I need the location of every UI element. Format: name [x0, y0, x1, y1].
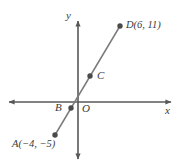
- point-d-label: D(6, 11): [126, 20, 161, 31]
- point-d-marker: [117, 23, 122, 28]
- x-axis-label: x: [165, 105, 170, 116]
- point-c-label: C: [97, 70, 104, 81]
- point-a-marker: [52, 132, 57, 137]
- point-b-marker: [68, 105, 73, 110]
- origin-label: O: [82, 103, 90, 114]
- line-segment-ad: [55, 26, 120, 135]
- y-axis-label: y: [66, 10, 71, 21]
- point-b-label: B: [55, 102, 62, 113]
- coordinate-plane-figure: y x O A(−4, −5) B C D(6, 11): [0, 0, 180, 168]
- point-a-label: A(−4, −5): [12, 139, 55, 150]
- point-c-marker: [87, 73, 92, 78]
